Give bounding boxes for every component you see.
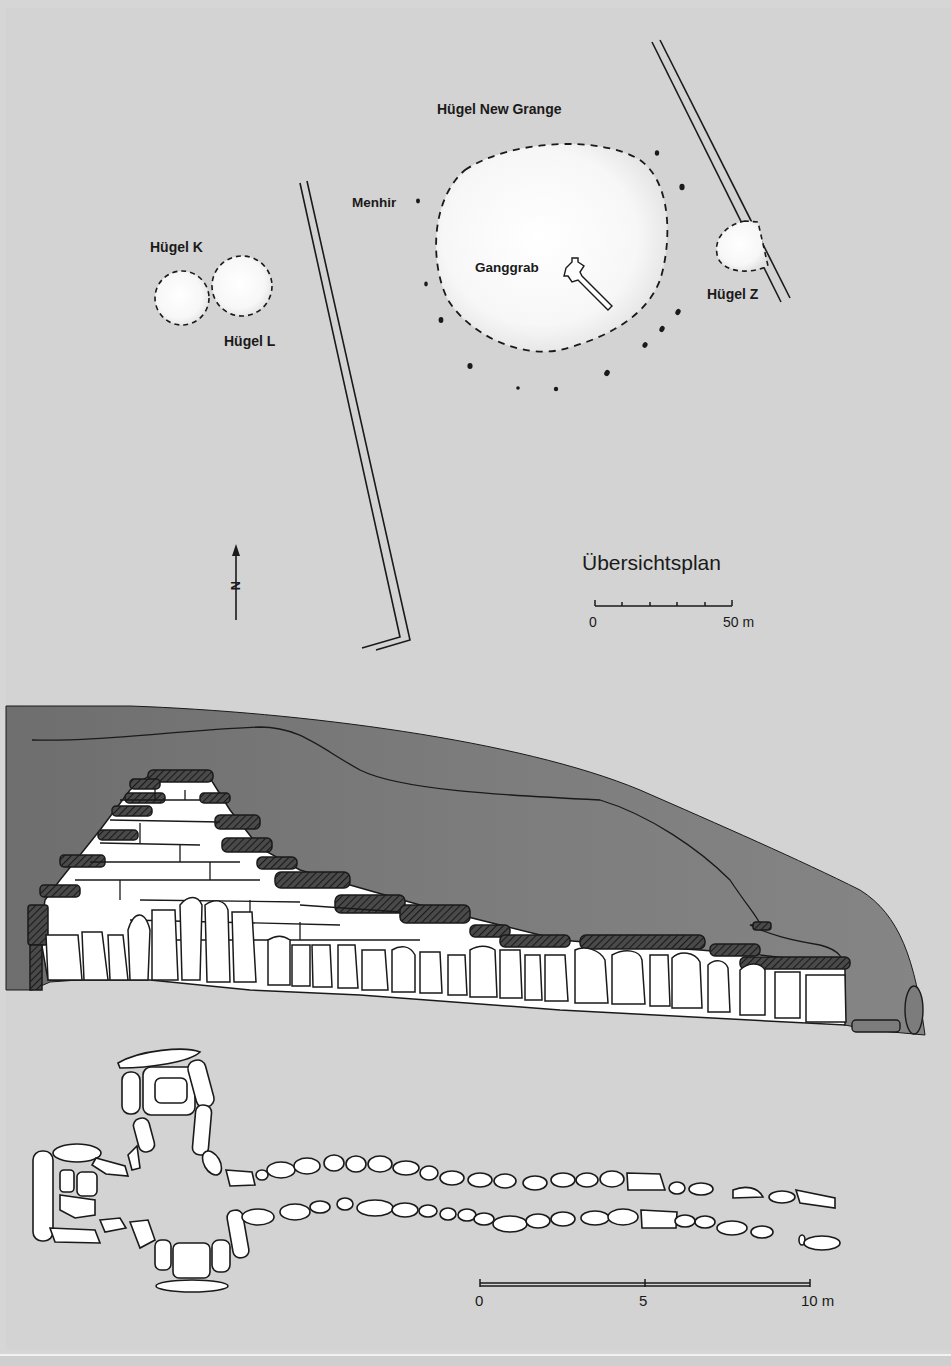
mound-section: [6, 706, 925, 1035]
tomb-plan: [33, 1049, 840, 1292]
site-scale-start: 0: [589, 614, 597, 630]
mound-z: [717, 221, 768, 271]
label-menhir: Menhir: [352, 195, 397, 210]
site-plan-title: Übersichtsplan: [582, 551, 721, 574]
north-label: N: [228, 581, 243, 590]
mound-l: [212, 256, 272, 316]
site-scale-end: 50 m: [723, 614, 754, 630]
mound-new-grange: [436, 144, 667, 352]
site-plan-scale-bar: [595, 600, 732, 606]
north-arrow-icon: N: [228, 544, 243, 620]
label-mound-k: Hügel K: [150, 239, 203, 255]
tomb-scale-end: 10 m: [801, 1292, 834, 1309]
tomb-plan-scale-bar: [480, 1279, 810, 1287]
road-left: [300, 181, 410, 650]
passage-wall-south: [242, 1198, 840, 1250]
mound-k: [155, 271, 209, 325]
passage-wall-north: [199, 1148, 835, 1208]
tomb-scale-start: 0: [475, 1292, 483, 1309]
label-passage-grave: Ganggrab: [475, 260, 539, 275]
site-plan: Hügel New Grange Menhir Ganggrab Hügel K…: [150, 40, 790, 650]
label-mound-new-grange: Hügel New Grange: [437, 101, 562, 117]
label-mound-l: Hügel L: [224, 333, 276, 349]
tomb-scale-mid: 5: [639, 1292, 647, 1309]
label-mound-z: Hügel Z: [707, 286, 759, 302]
